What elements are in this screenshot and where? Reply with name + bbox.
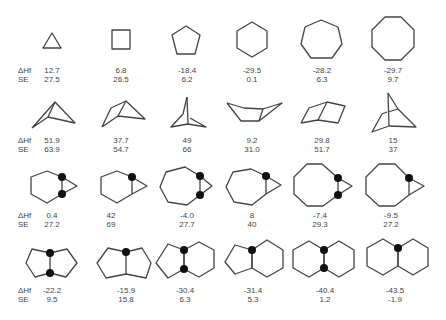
dhf-value: 49 xyxy=(167,136,207,145)
trans-bicyclooctane-structure xyxy=(226,169,281,205)
dhf-value: -4.0 xyxy=(167,211,207,220)
dhf-value: 37.7 xyxy=(101,136,141,145)
trans-decalin-structure xyxy=(367,239,428,275)
trans-bicyclononane-structure xyxy=(366,164,424,206)
dhf-value: -9.5 xyxy=(371,211,411,220)
se-value: 9.5 xyxy=(32,295,72,304)
structures-diagram xyxy=(0,0,446,320)
trans-bicyclooctane-fused-structure xyxy=(97,248,151,278)
se-label-row2: SE xyxy=(18,145,29,154)
bicycloheptane-perspective-structure xyxy=(227,103,282,121)
cis-bicyclooctane-fused-structure xyxy=(26,249,77,277)
se-value: 6.3 xyxy=(165,295,205,304)
se-label-row4: SE xyxy=(18,295,29,304)
cis-bicyclononane-structure xyxy=(294,164,352,206)
trans-bicycloheptane-structure xyxy=(101,171,147,203)
bicyclo111pentane-structure xyxy=(171,97,206,127)
bicyclobutane-structure xyxy=(32,102,75,128)
dhf-value: -15.9 xyxy=(106,286,146,295)
se-value: 37 xyxy=(373,145,413,154)
dhf-value: 6.8 xyxy=(101,66,141,75)
dhf-value: 9.2 xyxy=(232,136,272,145)
trans-hydrindane-structure xyxy=(225,240,283,277)
dhf-value: -7.4 xyxy=(300,211,340,220)
se-value: 27.2 xyxy=(371,220,411,229)
dhf-value: -28.2 xyxy=(302,66,342,75)
se-value: 31.0 xyxy=(232,145,272,154)
dhf-label-row4: ΔHf xyxy=(18,286,31,295)
dhf-value: -22.2 xyxy=(32,286,72,295)
cis-bicycloheptane-structure xyxy=(31,171,77,203)
cyclohexane-structure xyxy=(237,22,267,57)
dhf-value: 42 xyxy=(91,211,131,220)
se-value: 69 xyxy=(91,220,131,229)
bicyclopentane-structure xyxy=(102,101,145,127)
se-value: 1.2 xyxy=(305,295,345,304)
se-value: 54.7 xyxy=(101,145,141,154)
se-label-row3: SE xyxy=(18,220,29,229)
se-value: 66 xyxy=(167,145,207,154)
bicyclohexane-structure xyxy=(301,102,345,123)
se-value: 51.7 xyxy=(302,145,342,154)
dhf-value: 51.9 xyxy=(32,136,72,145)
dhf-value: 15 xyxy=(373,136,413,145)
dhf-value: -31.4 xyxy=(233,286,273,295)
cyclopentane-structure xyxy=(172,26,200,54)
cyclooctane-structure xyxy=(372,17,414,60)
se-value: 6.3 xyxy=(302,75,342,84)
se-value: 27.2 xyxy=(32,220,72,229)
se-value: 27.5 xyxy=(32,75,72,84)
cis-hydrindane-structure xyxy=(156,242,214,278)
se-value: 6.2 xyxy=(167,75,207,84)
cyclopropane-structure xyxy=(43,33,61,48)
se-value: 29.3 xyxy=(300,220,340,229)
dhf-value: -43.5 xyxy=(375,286,415,295)
bicyclo211hexane-structure xyxy=(372,93,416,132)
cycloheptane-structure xyxy=(301,20,342,58)
dhf-label-row2: ΔHf xyxy=(18,136,31,145)
dhf-value: -30.4 xyxy=(165,286,205,295)
cis-decalin-structure xyxy=(293,241,354,277)
se-value: 26.5 xyxy=(101,75,141,84)
se-value: 40 xyxy=(232,220,272,229)
dhf-value: -29.5 xyxy=(232,66,272,75)
cyclobutane-structure xyxy=(112,30,130,49)
dhf-value: -29.7 xyxy=(373,66,413,75)
cis-bicyclooctane-structure xyxy=(160,167,212,205)
dhf-value: 0.4 xyxy=(32,211,72,220)
dhf-label-row1: ΔHf xyxy=(18,66,31,75)
dhf-value: 12.7 xyxy=(32,66,72,75)
dhf-value: 29.8 xyxy=(302,136,342,145)
se-value: 15.8 xyxy=(106,295,146,304)
se-value: 0.1 xyxy=(232,75,272,84)
dhf-value: 8 xyxy=(232,211,272,220)
se-value: -1.9 xyxy=(375,295,415,304)
se-value: 5.3 xyxy=(233,295,273,304)
se-value: 27.7 xyxy=(167,220,207,229)
dhf-value: -40.4 xyxy=(305,286,345,295)
se-value: 9.7 xyxy=(373,75,413,84)
dhf-value: -18.4 xyxy=(167,66,207,75)
se-label-row1: SE xyxy=(18,75,29,84)
dhf-label-row3: ΔHf xyxy=(18,211,31,220)
se-value: 63.9 xyxy=(32,145,72,154)
